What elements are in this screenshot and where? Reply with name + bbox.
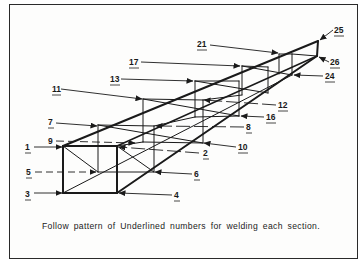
label-underlines [25, 36, 344, 201]
callout-12: 12 [278, 100, 288, 110]
callout-11: 11 [52, 84, 61, 94]
callout-17: 17 [129, 57, 139, 67]
callout-leaders [34, 30, 333, 195]
callout-7: 7 [48, 117, 53, 127]
callout-13: 13 [110, 74, 120, 84]
callout-16: 16 [266, 112, 276, 122]
callout-26: 26 [330, 57, 340, 67]
callout-8: 8 [246, 122, 251, 132]
callout-25: 25 [334, 25, 344, 35]
callout-5: 5 [26, 167, 31, 177]
callout-1: 1 [25, 142, 30, 152]
callout-10: 10 [238, 142, 248, 152]
bottom-left-chord [63, 75, 292, 193]
callout-24: 24 [325, 71, 335, 81]
top-left-chord [63, 41, 318, 146]
callout-2: 2 [203, 148, 208, 158]
callout-3: 3 [25, 189, 30, 199]
callout-6: 6 [194, 169, 199, 179]
callout-4: 4 [174, 190, 179, 200]
diagram-caption: Follow pattern of Underlined numbers for… [42, 221, 322, 232]
callout-21: 21 [197, 39, 207, 49]
callout-9: 9 [48, 136, 53, 146]
